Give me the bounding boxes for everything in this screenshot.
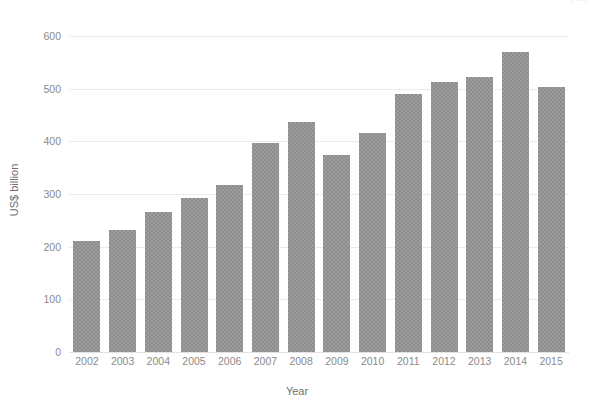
bar [288,122,315,352]
bar [431,82,458,352]
y-tick-label: 600 [43,31,61,42]
bar [538,87,565,352]
x-tick-label: 2012 [424,356,464,367]
x-tick-label: 2011 [388,356,428,367]
x-tick-label: 2013 [460,356,500,367]
x-tick-label: 2003 [103,356,143,367]
bar-chart: (%) US$ billion 0100200300400500600 2002… [0,0,594,412]
gridline-300 [69,194,569,195]
gridline-0 [69,352,569,353]
y-tick-label: 500 [43,84,61,95]
x-axis-title: Year [0,385,594,397]
x-tick-label: 2009 [317,356,357,367]
y-tick-label: 200 [43,242,61,253]
gridline-500 [69,89,569,90]
clipped-top-text-label: (%) [570,0,588,3]
bar [145,212,172,352]
plot-area [69,28,569,352]
bar [359,133,386,352]
x-tick-label: 2010 [353,356,393,367]
y-tick-label: 0 [55,347,61,358]
bar [181,198,208,352]
gridline-400 [69,141,569,142]
bar [252,143,279,352]
x-tick-label: 2014 [495,356,535,367]
bar [502,52,529,352]
y-tick-label: 300 [43,189,61,200]
clipped-top-text: (%) [0,0,594,14]
x-tick-label: 2015 [531,356,571,367]
bar [216,185,243,352]
y-tick-label: 100 [43,294,61,305]
bar [395,94,422,352]
x-axis: 2002200320042005200620072008200920102011… [69,356,569,372]
gridline-600 [69,36,569,37]
y-tick-label: 400 [43,136,61,147]
bar [109,230,136,352]
x-tick-label: 2007 [245,356,285,367]
y-axis-title: US$ billion [8,164,20,217]
x-tick-label: 2004 [138,356,178,367]
bar [323,155,350,352]
x-tick-label: 2005 [174,356,214,367]
y-axis: US$ billion 0100200300400500600 [0,28,69,352]
bar [466,77,493,353]
x-tick-label: 2008 [281,356,321,367]
x-tick-label: 2006 [210,356,250,367]
bar [73,241,100,352]
x-tick-label: 2002 [67,356,107,367]
